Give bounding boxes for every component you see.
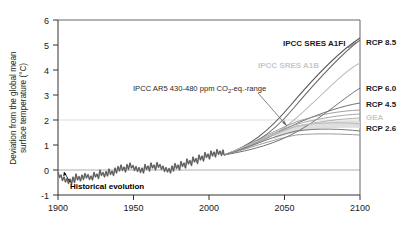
legend-label-rcp45: RCP 4.5 (366, 100, 397, 109)
y-tick-label-minus1: -1 (41, 191, 49, 201)
annotation-sres-a1fi: IPCC SRES A1FI (283, 39, 345, 48)
legend-label-rcp60: RCP 6.0 (366, 84, 397, 93)
x-tick-label-2100: 2100 (350, 203, 370, 213)
x-axis-ticks (58, 195, 360, 200)
x-tick-label-1900: 1900 (48, 203, 68, 213)
y-axis-ticks (53, 20, 58, 195)
legend-label-gea: GEA (366, 113, 384, 122)
x-tick-label-2050: 2050 (274, 203, 294, 213)
y-axis-title: Deviation from the global mean surface t… (9, 51, 28, 165)
y-tick-label-4: 4 (44, 66, 49, 76)
y-axis-title-line1: Deviation from the global mean (9, 51, 18, 165)
y-tick-label-0: 0 (44, 166, 49, 176)
annotation-ar5-range: IPCC AR5 430-480 ppm CO2-eq.-range (133, 84, 266, 94)
y-tick-label-2: 2 (44, 116, 49, 126)
x-tick-label-1950: 1950 (123, 203, 143, 213)
chart-canvas: 6 5 4 3 2 1 0 -1 Deviation from the glob… (0, 0, 406, 225)
x-tick-label-2000: 2000 (199, 203, 219, 213)
climate-projection-chart: 6 5 4 3 2 1 0 -1 Deviation from the glob… (0, 0, 406, 225)
y-tick-label-3: 3 (44, 91, 49, 101)
legend-label-rcp26: RCP 2.6 (366, 124, 397, 133)
y-tick-label-1: 1 (44, 141, 49, 151)
annotation-historical-evolution: Historical evolution (70, 182, 144, 191)
y-axis-title-line2: surface temperature (°C) (19, 63, 28, 153)
legend-label-rcp85: RCP 8.5 (366, 38, 397, 47)
y-tick-label-6: 6 (44, 16, 49, 26)
y-tick-label-5: 5 (44, 41, 49, 51)
annotation-sres-a1b: IPCC SRES A1B (258, 61, 319, 70)
